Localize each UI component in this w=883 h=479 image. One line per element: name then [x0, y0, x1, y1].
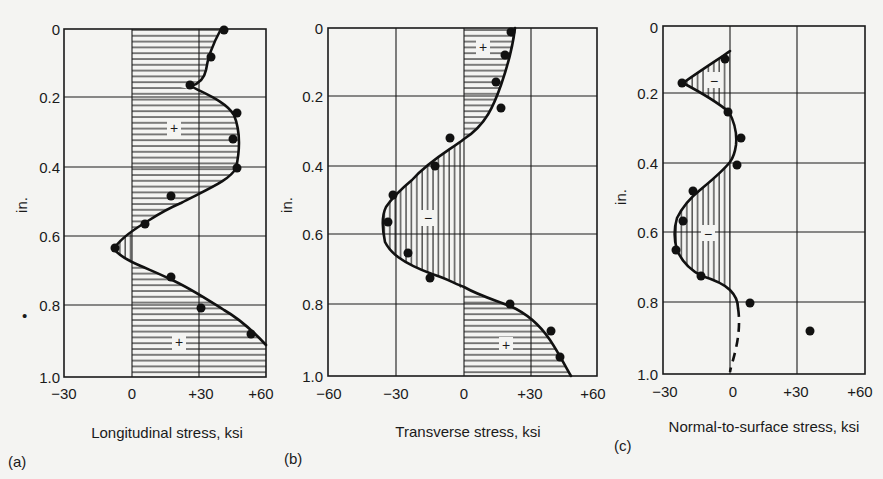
y-tick: 0.4	[302, 158, 323, 175]
y-tick: 0	[315, 20, 323, 37]
x-axis-label: Longitudinal stress, ksi	[91, 424, 243, 441]
y-tick: 1.0	[302, 368, 323, 385]
y-tick: 0.8	[302, 296, 323, 313]
y-tick: 0.4	[39, 159, 60, 176]
region-sign: −	[704, 226, 712, 242]
x-tick: +30	[517, 385, 542, 402]
stray-mark: •	[22, 307, 27, 324]
x-tick: 0	[460, 385, 468, 402]
region-sign: +	[479, 39, 487, 55]
y-tick: 1.0	[39, 369, 60, 386]
x-axis-label: Normal-to-surface stress, ksi	[669, 418, 860, 435]
panel-b: + − + 0 0.2 0.4 0.6 0.8 1.0 in. −60 −30 …	[278, 20, 606, 467]
extrapolated-curve	[730, 308, 739, 372]
x-tick: +60	[248, 385, 273, 402]
y-tick: 0.2	[302, 88, 323, 105]
panel-a: + + 0 0.2 0.4 0.6 0.8 1.0 in. • −30 0 +3…	[8, 21, 274, 470]
y-tick: 0.8	[39, 297, 60, 314]
panel-label: (c)	[614, 437, 632, 454]
y-axis-label: in.	[278, 197, 295, 213]
x-tick: −60	[316, 385, 341, 402]
region-sign: −	[710, 73, 718, 89]
y-axis-label: in.	[13, 197, 30, 213]
y-axis-label: in.	[612, 189, 629, 205]
y-tick: 0	[650, 19, 658, 36]
region-sign: +	[502, 337, 510, 353]
y-tick: 0.4	[637, 155, 658, 172]
y-tick: 1.0	[637, 366, 658, 383]
x-tick: −30	[383, 385, 408, 402]
x-tick: +60	[847, 383, 872, 400]
y-tick: 0.6	[302, 226, 323, 243]
y-tick: 0.6	[637, 224, 658, 241]
data-points	[672, 55, 815, 336]
x-tick: 0	[128, 385, 136, 402]
panel-label: (b)	[284, 450, 302, 467]
positive-region-bottom	[464, 292, 571, 376]
x-tick: +60	[580, 385, 605, 402]
x-tick: +30	[783, 383, 808, 400]
region-sign: +	[175, 334, 183, 350]
region-sign: −	[424, 210, 432, 226]
y-tick: 0.6	[39, 228, 60, 245]
figure: + + 0 0.2 0.4 0.6 0.8 1.0 in. • −30 0 +3…	[0, 0, 883, 479]
x-tick: −30	[652, 383, 677, 400]
panel-c: − − 0 0.2 0.4 0.6 0.8 1.0 in. −30 0 +30 …	[612, 19, 873, 454]
y-tick: 0.8	[637, 294, 658, 311]
panel-label: (a)	[8, 453, 26, 470]
y-tick: 0	[52, 21, 60, 38]
x-tick: −30	[51, 385, 76, 402]
region-sign: +	[170, 120, 178, 136]
x-axis-label: Transverse stress, ksi	[395, 423, 540, 440]
x-tick: 0	[729, 383, 737, 400]
y-tick: 0.2	[637, 85, 658, 102]
y-tick: 0.2	[39, 89, 60, 106]
x-tick: +30	[188, 385, 213, 402]
